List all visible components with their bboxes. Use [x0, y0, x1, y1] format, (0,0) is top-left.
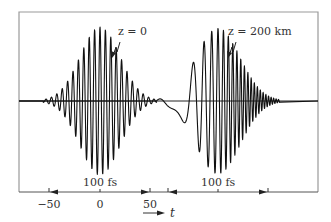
time-axis-label: t [170, 206, 175, 220]
pulse-label-z0: z = 0 [118, 25, 147, 38]
axis-tick-label: 0 [97, 198, 104, 211]
axis-tick-label: −50 [37, 198, 60, 211]
arrowhead-icon [157, 211, 165, 216]
pulse-propagation-diagram: z = 0 z = 200 km 100 fs 100 fs −50 0 50 … [0, 0, 331, 222]
duration-label: 100 fs [83, 176, 118, 189]
duration-label: 100 fs [201, 176, 236, 189]
duration-markers [19, 188, 318, 195]
axis-tick-label: 50 [143, 198, 157, 211]
pulse-label-z200km: z = 200 km [228, 25, 292, 38]
